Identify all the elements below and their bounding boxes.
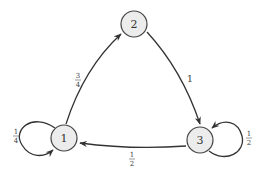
state-node-3-label: 3	[197, 134, 204, 147]
state-node-1: 1	[51, 125, 77, 151]
self-loop-3-denominator: 2	[247, 139, 251, 147]
edge-1-to-2-denominator: 4	[76, 81, 81, 89]
self-loop-3-numerator: 1	[247, 130, 251, 138]
edge-2-to-3: 1	[147, 32, 200, 124]
edge-3-to-1-numerator: 1	[130, 151, 134, 159]
state-node-2-label: 2	[131, 18, 138, 31]
self-loop-1-denominator: 4	[14, 137, 19, 145]
edge-3-to-1: 1 2	[80, 143, 186, 168]
state-node-2: 2	[121, 11, 147, 37]
edge-3-to-1-denominator: 2	[130, 160, 134, 168]
self-loop-3: 1 2	[209, 122, 252, 156]
state-node-3: 3	[187, 127, 213, 153]
markov-chain-diagram: 3 4 1 1 2 1 4 1 2 1 2 3	[0, 0, 264, 181]
self-loop-1: 1 4	[13, 122, 55, 156]
edge-1-to-2-numerator: 3	[76, 72, 80, 80]
edge-2-to-3-label: 1	[187, 73, 193, 84]
state-node-1-label: 1	[61, 132, 68, 145]
edge-1-to-2: 3 4	[66, 34, 121, 124]
self-loop-1-numerator: 1	[14, 128, 18, 136]
